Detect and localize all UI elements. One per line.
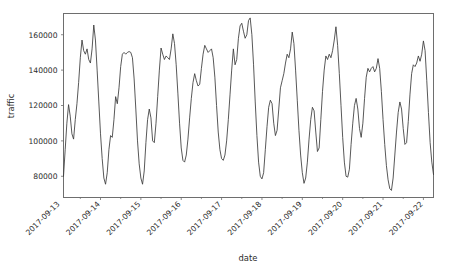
x-tick-label: 2017-09-22 bbox=[387, 199, 425, 237]
y-tick-label: 160000 bbox=[29, 31, 58, 40]
y-axis-title: traffic bbox=[6, 93, 16, 118]
x-tick-label: 2017-09-16 bbox=[145, 199, 183, 237]
y-tick-label: 140000 bbox=[29, 66, 58, 75]
x-tick-label: 2017-09-19 bbox=[266, 199, 304, 237]
x-tick-label: 2017-09-18 bbox=[226, 199, 264, 237]
traffic-line-chart: 80000100000120000140000160000 2017-09-13… bbox=[0, 0, 455, 269]
x-tick-label: 2017-09-13 bbox=[24, 199, 62, 237]
x-axis-title: date bbox=[239, 253, 258, 263]
y-tick-label: 120000 bbox=[29, 101, 58, 110]
x-axis-ticks: 2017-09-132017-09-142017-09-152017-09-16… bbox=[24, 198, 425, 238]
x-tick-label: 2017-09-14 bbox=[64, 199, 102, 237]
y-tick-label: 80000 bbox=[33, 172, 57, 181]
x-tick-label: 2017-09-17 bbox=[185, 199, 223, 237]
x-tick-label: 2017-09-15 bbox=[105, 199, 143, 237]
plot-area-background bbox=[63, 13, 434, 198]
x-tick-label: 2017-09-21 bbox=[347, 199, 385, 237]
x-tick-label: 2017-09-20 bbox=[307, 199, 345, 237]
y-axis-ticks: 80000100000120000140000160000 bbox=[29, 31, 64, 182]
y-tick-label: 100000 bbox=[29, 137, 58, 146]
chart-figure: 80000100000120000140000160000 2017-09-13… bbox=[0, 0, 455, 269]
